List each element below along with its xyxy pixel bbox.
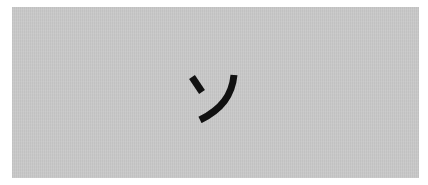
flashcard: ソ bbox=[12, 7, 419, 178]
katakana-so-glyph-icon bbox=[186, 63, 246, 123]
katakana-character: ソ bbox=[12, 7, 419, 178]
